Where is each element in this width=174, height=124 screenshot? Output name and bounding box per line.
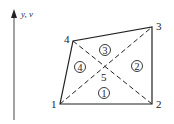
svg-text:1: 1 xyxy=(102,88,107,99)
svg-text:2: 2 xyxy=(135,61,140,72)
element-label-4: 4 xyxy=(75,62,86,73)
node-label-4: 4 xyxy=(64,33,70,45)
y-axis: y, v xyxy=(11,9,33,120)
svg-text:3: 3 xyxy=(103,45,108,56)
y-axis-arrow-icon xyxy=(11,9,17,18)
element-label-1: 1 xyxy=(99,88,110,99)
node-label-1: 1 xyxy=(51,98,57,110)
node-label-2: 2 xyxy=(156,98,162,110)
diagonal-4-2 xyxy=(73,41,152,104)
quadrilateral-element-diagram: y, v 1 2 3 4 5 1 2 3 4 xyxy=(0,0,174,124)
svg-text:4: 4 xyxy=(78,62,83,73)
node-label-3: 3 xyxy=(156,20,162,32)
element-label-2: 2 xyxy=(132,61,143,72)
element-label-3: 3 xyxy=(100,45,111,56)
node-label-5: 5 xyxy=(101,71,107,83)
y-axis-label: y, v xyxy=(20,9,33,19)
